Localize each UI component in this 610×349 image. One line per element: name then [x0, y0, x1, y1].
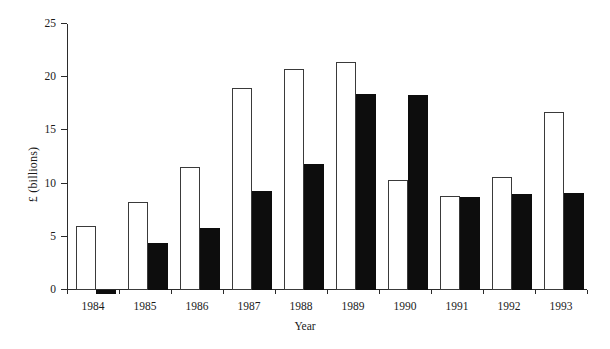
bar-group-1990 — [388, 24, 428, 290]
bar-group-1988 — [284, 24, 324, 290]
y-tick-label: 20 — [45, 68, 57, 84]
y-tick-label: 10 — [45, 175, 57, 191]
bar-open-bar-series-1986 — [180, 167, 200, 290]
bar-open-bar-series-1991 — [440, 196, 460, 290]
bar-open-bar-series-1992 — [492, 177, 512, 290]
x-category-label-1986: 1986 — [167, 300, 227, 312]
x-axis-label: Year — [0, 320, 610, 332]
y-tick-15: 15 — [61, 129, 67, 130]
x-axis-tick — [275, 290, 276, 294]
y-tick-label: 0 — [50, 281, 56, 297]
y-axis-line — [67, 24, 68, 290]
x-category-label-1990: 1990 — [375, 300, 435, 312]
bar-solid-bar-series-1992 — [512, 194, 532, 290]
bar-open-bar-series-1984 — [76, 226, 96, 290]
x-axis-tick — [379, 290, 380, 294]
y-tick-10: 10 — [61, 183, 67, 184]
y-tick-label: 5 — [50, 228, 56, 244]
x-category-label-1993: 1993 — [531, 300, 591, 312]
x-axis-tick — [535, 290, 536, 294]
y-tick-label: 25 — [45, 15, 57, 31]
x-category-label-1989: 1989 — [323, 300, 383, 312]
x-category-label-1991: 1991 — [427, 300, 487, 312]
y-tick-label: 15 — [45, 121, 57, 137]
x-category-label-1987: 1987 — [219, 300, 279, 312]
bar-group-1985 — [128, 24, 168, 290]
x-axis-tick — [171, 290, 172, 294]
bar-solid-bar-series-1987 — [252, 191, 272, 290]
x-axis-tick — [67, 290, 68, 294]
x-category-label-1985: 1985 — [115, 300, 175, 312]
x-axis-tick — [587, 290, 588, 294]
bar-group-1989 — [336, 24, 376, 290]
bar-group-1992 — [492, 24, 532, 290]
x-axis-tick — [119, 290, 120, 294]
bar-open-bar-series-1988 — [284, 69, 304, 290]
bar-open-bar-series-1987 — [232, 88, 252, 290]
x-category-label-1988: 1988 — [271, 300, 331, 312]
x-category-label-1984: 1984 — [63, 300, 123, 312]
bar-open-bar-series-1985 — [128, 202, 148, 290]
bar-solid-bar-series-1988 — [304, 164, 324, 290]
bar-open-bar-series-1989 — [336, 62, 356, 290]
bar-solid-bar-series-1991 — [460, 197, 480, 290]
bar-group-1991 — [440, 24, 480, 290]
x-axis-tick — [431, 290, 432, 294]
bar-open-bar-series-1990 — [388, 180, 408, 290]
bar-solid-bar-series-1985 — [148, 243, 168, 290]
bar-solid-bar-series-1986 — [200, 228, 220, 290]
bar-solid-bar-series-1993 — [564, 193, 584, 290]
x-axis-tick — [223, 290, 224, 294]
x-axis-tick — [483, 290, 484, 294]
y-tick-20: 20 — [61, 76, 67, 77]
bar-solid-bar-series-1990 — [408, 95, 428, 290]
bar-open-bar-series-1993 — [544, 112, 564, 290]
plot-area: 0510152025 — [67, 24, 587, 290]
bar-group-1984 — [76, 24, 116, 290]
y-axis-label: £ (billions) — [22, 0, 44, 349]
bar-solid-bar-series-1984 — [96, 290, 116, 294]
bar-group-1986 — [180, 24, 220, 290]
bar-group-1987 — [232, 24, 272, 290]
bar-group-1993 — [544, 24, 584, 290]
y-tick-5: 5 — [61, 236, 67, 237]
bar-chart: £ (billions) 0510152025 1984198519861987… — [0, 0, 610, 349]
bar-solid-bar-series-1989 — [356, 94, 376, 290]
x-category-label-1992: 1992 — [479, 300, 539, 312]
y-tick-25: 25 — [61, 23, 67, 24]
x-axis-tick — [327, 290, 328, 294]
